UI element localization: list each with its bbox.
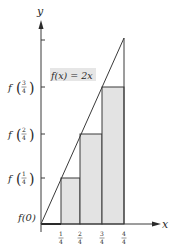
svg-text:4: 4 xyxy=(59,238,63,245)
svg-text:): ) xyxy=(29,171,34,187)
y-axis-label: y xyxy=(36,5,44,18)
svg-text:(: ( xyxy=(16,127,21,143)
svg-text:(: ( xyxy=(16,171,21,187)
x-axis-label: x xyxy=(162,218,169,231)
y-axis-arrow-icon xyxy=(39,20,44,29)
svg-text:2: 2 xyxy=(78,230,82,237)
svg-text:1: 1 xyxy=(22,170,26,177)
y-label-f3: f ( 3 4 ) xyxy=(7,79,34,96)
x-tick-1: 1 4 xyxy=(59,230,64,245)
svg-text:4: 4 xyxy=(122,230,126,237)
svg-text:f: f xyxy=(7,129,14,140)
y-ticks xyxy=(41,40,45,178)
svg-text:1: 1 xyxy=(59,230,63,237)
svg-text:(: ( xyxy=(16,80,21,96)
svg-text:4: 4 xyxy=(122,238,126,245)
riemann-sum-diagram: y x f(x) = 2x f ( 3 4 ) f ( 2 4 ) f ( 1 … xyxy=(0,0,170,251)
rectangle-4 xyxy=(102,87,124,224)
svg-text:3: 3 xyxy=(100,230,104,237)
x-tick-3: 3 4 xyxy=(100,230,105,245)
svg-text:f: f xyxy=(7,173,14,184)
svg-text:4: 4 xyxy=(22,134,26,141)
y-label-f1: f ( 1 4 ) xyxy=(7,170,34,187)
svg-text:4: 4 xyxy=(22,178,26,185)
rectangle-2 xyxy=(61,178,80,224)
svg-text:2: 2 xyxy=(22,126,26,133)
svg-text:3: 3 xyxy=(22,79,26,86)
x-tick-4: 4 4 xyxy=(122,230,127,245)
svg-text:4: 4 xyxy=(100,238,104,245)
svg-text:): ) xyxy=(29,80,34,96)
y-label-f2: f ( 2 4 ) xyxy=(7,126,34,143)
svg-text:f: f xyxy=(7,82,14,93)
y-label-f0: f(0) xyxy=(17,212,36,223)
y-axis xyxy=(39,20,44,232)
rectangle-3 xyxy=(80,134,102,224)
x-tick-2: 2 4 xyxy=(78,230,83,245)
svg-text:4: 4 xyxy=(78,238,82,245)
svg-text:4: 4 xyxy=(22,87,26,94)
function-label: f(x) = 2x xyxy=(50,70,93,81)
svg-text:): ) xyxy=(29,127,34,143)
x-axis-arrow-icon xyxy=(152,222,161,227)
